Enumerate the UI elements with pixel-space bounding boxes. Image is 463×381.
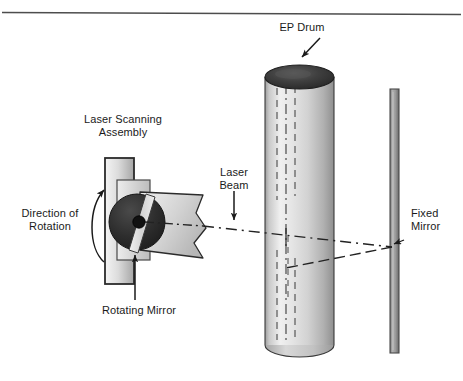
ep-drum-body	[265, 77, 334, 357]
label-laser-scanning-assembly-line1: Laser Scanning	[84, 113, 162, 125]
fixed-mirror	[390, 89, 399, 353]
ep-drum-top-highlight	[275, 69, 311, 79]
rotating-mirror-hub	[133, 216, 145, 228]
label-direction-of-rotation-line2: Rotation	[29, 220, 71, 232]
ep-drum-callout-arrow	[302, 38, 320, 57]
label-ep-drum: EP Drum	[279, 21, 324, 33]
label-direction-of-rotation-line1: Direction of	[22, 207, 80, 219]
diagram-page: EP Drum Laser Scanning Assembly Laser Be…	[0, 0, 463, 381]
laser-scanning-assembly	[105, 158, 206, 284]
ep-drum-bottom-cap	[265, 345, 334, 357]
laser-scanning-diagram: EP Drum Laser Scanning Assembly Laser Be…	[0, 0, 463, 381]
direction-of-rotation-arrow	[92, 190, 104, 262]
fixed-mirror-bar	[390, 89, 399, 353]
ep-drum	[265, 65, 334, 357]
label-fixed-mirror-line2: Mirror	[411, 220, 441, 232]
label-fixed-mirror-line1: Fixed	[411, 207, 438, 219]
label-laser-scanning-assembly-line2: Assembly	[99, 126, 148, 138]
label-laser-beam-line1: Laser	[220, 166, 248, 178]
label-rotating-mirror: Rotating Mirror	[102, 304, 176, 316]
top-divider-rule	[2, 13, 461, 15]
label-laser-beam-line2: Beam	[219, 179, 248, 191]
